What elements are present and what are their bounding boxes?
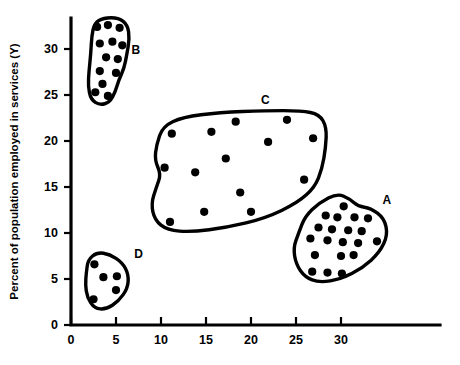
x-tick-label: 30 bbox=[334, 333, 348, 347]
data-point bbox=[207, 128, 215, 136]
x-tick-label: 15 bbox=[199, 333, 213, 347]
data-point bbox=[344, 226, 352, 234]
data-point bbox=[93, 23, 101, 31]
y-tick-label: 30 bbox=[44, 42, 58, 56]
data-point bbox=[311, 251, 319, 259]
y-tick-label: 25 bbox=[44, 88, 58, 102]
data-point bbox=[247, 208, 255, 216]
x-tick-label: 5 bbox=[113, 333, 120, 347]
data-point bbox=[112, 286, 120, 294]
data-point bbox=[333, 213, 341, 221]
data-point bbox=[328, 225, 336, 233]
cluster-label-c: C bbox=[261, 93, 270, 107]
data-point bbox=[90, 260, 98, 268]
data-point bbox=[236, 188, 244, 196]
data-point bbox=[373, 237, 381, 245]
data-point bbox=[168, 130, 176, 138]
cluster-label-d: D bbox=[134, 247, 143, 261]
data-point bbox=[300, 176, 308, 184]
data-point bbox=[89, 295, 97, 303]
x-tick-label: 0 bbox=[68, 333, 75, 347]
data-point bbox=[98, 80, 106, 88]
y-tick-label: 5 bbox=[51, 272, 58, 286]
data-point bbox=[104, 21, 112, 29]
y-tick-label: 0 bbox=[51, 318, 58, 332]
data-point bbox=[358, 227, 366, 235]
x-tick-label: 20 bbox=[244, 333, 258, 347]
cluster-boundary-c bbox=[152, 111, 326, 232]
y-axis-title: Percent of population employed in servic… bbox=[8, 43, 20, 299]
data-point bbox=[116, 24, 124, 32]
data-point bbox=[309, 134, 317, 142]
data-point bbox=[323, 268, 331, 276]
y-tick-label: 10 bbox=[44, 226, 58, 240]
data-point bbox=[264, 138, 272, 146]
data-point bbox=[364, 214, 372, 222]
x-tick-label: 10 bbox=[154, 333, 168, 347]
data-point bbox=[283, 116, 291, 124]
cluster-hull-group bbox=[86, 18, 387, 309]
y-tick-label: 15 bbox=[44, 180, 58, 194]
data-point bbox=[232, 118, 240, 126]
data-point bbox=[104, 92, 112, 100]
data-point bbox=[91, 88, 99, 96]
data-point bbox=[166, 218, 174, 226]
data-point bbox=[96, 39, 104, 47]
x-tick-label: 25 bbox=[289, 333, 303, 347]
data-point bbox=[308, 268, 316, 276]
data-point bbox=[314, 223, 322, 231]
data-point bbox=[161, 164, 169, 172]
cluster-label-b: B bbox=[131, 43, 140, 57]
data-point bbox=[108, 38, 116, 46]
data-point bbox=[322, 211, 330, 219]
data-point bbox=[114, 55, 122, 63]
data-point bbox=[323, 236, 331, 244]
data-point bbox=[339, 238, 347, 246]
data-point bbox=[340, 202, 348, 210]
data-point bbox=[350, 251, 358, 259]
y-axis-ticks: 051015202530 bbox=[44, 42, 72, 332]
data-point bbox=[337, 252, 345, 260]
cluster-label-a: A bbox=[383, 193, 392, 207]
x-axis-ticks: 051015202530 bbox=[68, 317, 348, 347]
data-point bbox=[113, 272, 121, 280]
data-point bbox=[118, 41, 126, 49]
data-point bbox=[99, 273, 107, 281]
y-tick-label: 20 bbox=[44, 134, 58, 148]
data-point bbox=[350, 213, 358, 221]
data-point bbox=[306, 234, 314, 242]
data-point bbox=[354, 239, 362, 247]
data-point bbox=[112, 69, 120, 77]
data-point bbox=[191, 168, 199, 176]
data-point bbox=[96, 67, 104, 75]
scatter-chart-figure: BCAD 051015202530 051015202530 Percent o… bbox=[0, 0, 460, 365]
plot-canvas: BCAD 051015202530 051015202530 Percent o… bbox=[0, 0, 460, 365]
data-point bbox=[200, 208, 208, 216]
data-point bbox=[102, 53, 110, 61]
data-point bbox=[338, 269, 346, 277]
data-point bbox=[222, 154, 230, 162]
